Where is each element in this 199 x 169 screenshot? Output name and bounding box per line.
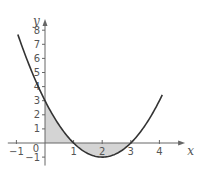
quadratic-chart: −11234 −112345678 0 x y (0, 0, 199, 169)
x-tick-label: −1 (9, 146, 24, 157)
shaded-area (45, 101, 131, 157)
origin-label: 0 (33, 143, 39, 154)
y-tick-label: 3 (34, 95, 40, 106)
y-tick-label: 6 (34, 53, 40, 64)
y-tick-label: 1 (34, 123, 40, 134)
x-tick-label: 3 (128, 146, 134, 157)
y-axis-title: y (32, 14, 40, 28)
x-axis-arrow-icon (178, 141, 185, 146)
x-axis-title: x (187, 144, 194, 158)
x-tick-label: 1 (70, 146, 76, 157)
x-tick-label: 4 (156, 146, 162, 157)
y-axis-arrow-icon (43, 19, 48, 26)
y-tick-label: 7 (34, 39, 40, 50)
y-tick-label: 2 (34, 109, 40, 120)
x-tick-label: 2 (99, 146, 105, 157)
